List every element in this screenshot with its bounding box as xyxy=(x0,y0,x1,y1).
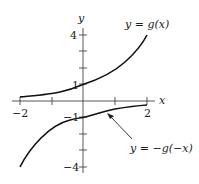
y-axis-label: y xyxy=(77,12,85,25)
curve-neg-g-neg xyxy=(20,105,147,167)
label-lower-curve: y = −g(−x) xyxy=(129,142,193,155)
annotation-arrow xyxy=(110,116,132,139)
y-tick-label-1: 1 xyxy=(72,79,79,92)
y-tick-label-neg4: −4 xyxy=(63,161,79,174)
x-axis-label: x xyxy=(159,94,166,107)
arrowhead-icon xyxy=(107,113,114,119)
curve-g xyxy=(20,35,147,97)
label-upper-curve: y = g(x) xyxy=(124,18,169,31)
x-tick-label-max: 2 xyxy=(144,107,151,120)
y-tick-label-4: 4 xyxy=(70,29,77,42)
y-tick-label-neg1: −1 xyxy=(63,111,79,124)
chart-canvas: y x −2 2 4 1 −1 −4 y = g(x) y = −g(−x) xyxy=(0,0,199,184)
x-tick-label-min: −2 xyxy=(12,107,28,120)
